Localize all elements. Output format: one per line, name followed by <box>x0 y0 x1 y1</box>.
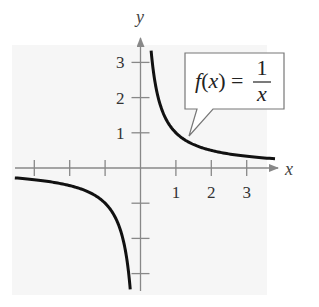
y-tick-label: 1 <box>116 124 125 143</box>
x-tick-label: 1 <box>172 183 181 202</box>
function-graph: 123 123 x y f(x) = 1 x <box>0 0 319 307</box>
y-tick-label: 3 <box>116 53 125 72</box>
callout-numerator: 1 <box>257 55 268 80</box>
y-tick-label: 2 <box>116 89 125 108</box>
callout-denominator: x <box>256 81 267 106</box>
x-tick-label: 3 <box>242 183 251 202</box>
y-axis-label: y <box>134 7 144 27</box>
callout-lhs: f(x) = <box>195 68 243 93</box>
x-tick-label: 2 <box>207 183 216 202</box>
graph-svg: 123 123 x y f(x) = 1 x <box>0 0 319 307</box>
x-axis-label: x <box>284 159 293 179</box>
y-tick-labels: 123 <box>116 53 125 142</box>
